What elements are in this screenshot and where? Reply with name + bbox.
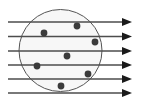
scattering-diagram-canvas: [0, 0, 142, 111]
ray-arrowhead-5: [122, 75, 132, 83]
scattering-figure: [0, 0, 142, 111]
arrowheads-layer: [122, 18, 132, 97]
particle-1: [74, 23, 81, 30]
ray-arrowhead-3: [122, 47, 132, 55]
ray-arrowhead-2: [122, 33, 132, 41]
ray-arrowhead-4: [122, 61, 132, 69]
ray-arrowhead-6: [122, 89, 132, 97]
particle-7: [58, 83, 65, 90]
particle-2: [41, 30, 48, 37]
particle-3: [92, 39, 99, 46]
particle-6: [85, 71, 92, 78]
particle-5: [34, 63, 41, 70]
ray-arrowhead-1: [122, 18, 132, 26]
particle-4: [64, 53, 71, 60]
